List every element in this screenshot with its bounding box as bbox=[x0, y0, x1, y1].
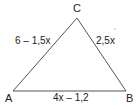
side-label-ac: 6 – 1,5x bbox=[15, 36, 51, 46]
vertex-label-a: A bbox=[5, 93, 12, 104]
side-label-bc: 2,5x bbox=[96, 36, 115, 46]
stray-dot bbox=[114, 28, 115, 29]
triangle-abc bbox=[13, 18, 126, 91]
vertex-label-c: C bbox=[73, 3, 81, 14]
vertex-label-b: B bbox=[126, 93, 133, 104]
side-label-ab: 4x – 1,2 bbox=[53, 93, 89, 103]
